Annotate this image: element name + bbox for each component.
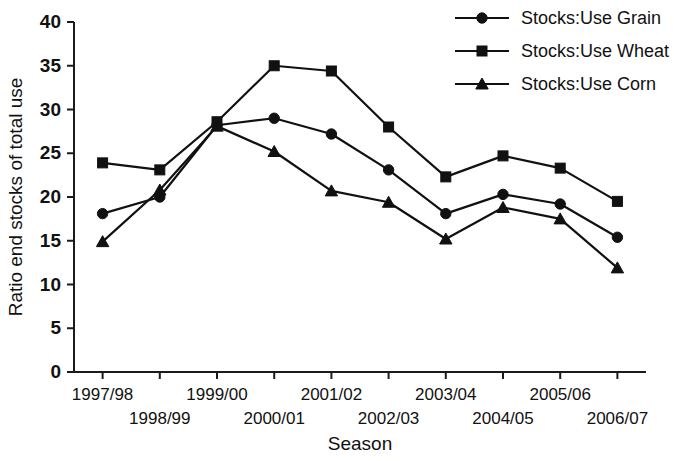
series-line-triangle — [103, 126, 618, 268]
line-chart: 05101520253035401997/981998/991999/00200… — [0, 0, 674, 461]
data-point — [325, 185, 337, 196]
x-axis-title: Season — [328, 433, 392, 454]
y-tick-label: 10 — [40, 274, 61, 295]
data-point — [440, 233, 452, 244]
x-tick-label: 2006/07 — [587, 409, 648, 428]
y-tick-label: 20 — [40, 186, 61, 207]
series-line-circle — [103, 118, 618, 237]
y-tick-label: 40 — [40, 11, 61, 32]
data-point — [269, 113, 279, 123]
data-point — [97, 208, 107, 218]
x-tick-label: 2001/02 — [301, 385, 362, 404]
data-point — [98, 158, 108, 168]
legend-marker-circle — [477, 13, 487, 23]
data-point — [497, 202, 509, 213]
data-point — [384, 122, 394, 132]
legend-item[interactable]: Stocks:Use Grain — [455, 8, 661, 28]
y-tick-label: 5 — [50, 317, 61, 338]
legend-marker-square — [477, 46, 487, 56]
data-point — [612, 196, 622, 206]
data-point — [555, 199, 565, 209]
x-tick-label: 2000/01 — [243, 409, 304, 428]
y-tick-label: 25 — [40, 142, 62, 163]
data-point — [498, 189, 508, 199]
data-point — [326, 129, 336, 139]
data-point — [269, 61, 279, 71]
y-axis-title: Ratio end stocks of total use — [5, 78, 26, 317]
data-point — [268, 146, 280, 157]
legend-label: Stocks:Use Corn — [521, 74, 656, 94]
y-tick-label: 30 — [40, 99, 61, 120]
x-tick-label: 1997/98 — [72, 385, 133, 404]
chart-container: 05101520253035401997/981998/991999/00200… — [0, 0, 674, 461]
legend-item[interactable]: Stocks:Use Corn — [455, 74, 656, 94]
y-tick-label: 0 — [50, 361, 61, 382]
legend-label: Stocks:Use Grain — [521, 8, 661, 28]
x-tick-label: 2003/04 — [415, 385, 476, 404]
series-circle — [97, 113, 622, 242]
x-tick-label: 2005/06 — [529, 385, 590, 404]
x-tick-label: 1999/00 — [186, 385, 247, 404]
series-triangle — [96, 120, 623, 273]
y-tick-label: 15 — [40, 230, 62, 251]
legend-item[interactable]: Stocks:Use Wheat — [455, 41, 669, 61]
x-tick-label: 2004/05 — [472, 409, 533, 428]
data-point — [555, 163, 565, 173]
data-point — [498, 151, 508, 161]
data-point — [441, 208, 451, 218]
data-point — [383, 165, 393, 175]
data-point — [326, 66, 336, 76]
data-point — [155, 165, 165, 175]
legend-label: Stocks:Use Wheat — [521, 41, 669, 61]
y-tick-label: 35 — [40, 55, 62, 76]
x-tick-label: 1998/99 — [129, 409, 190, 428]
x-tick-label: 2002/03 — [358, 409, 419, 428]
data-point — [441, 172, 451, 182]
data-point — [612, 232, 622, 242]
